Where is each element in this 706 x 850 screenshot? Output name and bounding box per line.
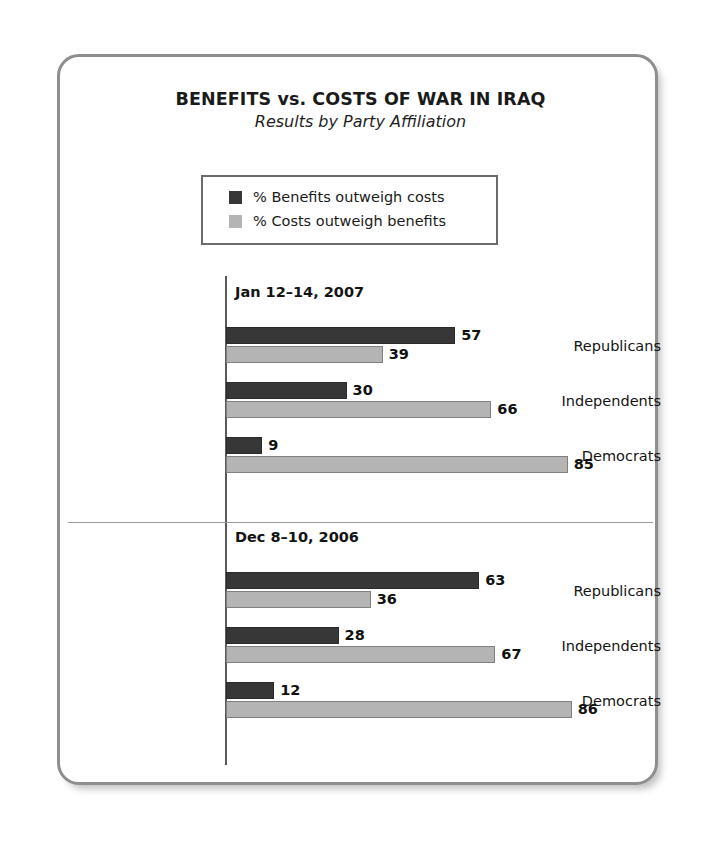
panel-header-dec-2006: Dec 8–10, 2006 bbox=[235, 529, 359, 545]
bar-row: 63 bbox=[226, 572, 505, 589]
bar-row: 66 bbox=[226, 401, 518, 418]
bar-row: 28 bbox=[226, 627, 522, 644]
bar-benefits[interactable] bbox=[226, 382, 347, 399]
bar-costs[interactable] bbox=[226, 456, 568, 473]
bar-row: 9 bbox=[226, 437, 594, 454]
bar-value-label: 12 bbox=[280, 682, 300, 699]
bar-group-republicans: 6336 bbox=[226, 572, 505, 608]
bar-value-label: 63 bbox=[485, 572, 505, 589]
bar-group-independents: 3066 bbox=[226, 382, 518, 418]
bar-costs[interactable] bbox=[226, 646, 495, 663]
chart-figure-frame: BENEFITS vs. COSTS OF WAR IN IRAQ Result… bbox=[57, 54, 658, 785]
bar-group-democrats: 1286 bbox=[226, 682, 598, 718]
bar-value-label: 36 bbox=[377, 591, 397, 608]
bar-benefits[interactable] bbox=[226, 572, 479, 589]
bar-value-label: 67 bbox=[501, 646, 521, 663]
bar-row: 57 bbox=[226, 327, 481, 344]
bar-row: 12 bbox=[226, 682, 598, 699]
bar-value-label: 39 bbox=[389, 346, 409, 363]
bar-benefits[interactable] bbox=[226, 327, 455, 344]
bar-group-republicans: 5739 bbox=[226, 327, 481, 363]
group-label-republicans: Republicans bbox=[506, 583, 661, 599]
bar-value-label: 57 bbox=[461, 327, 481, 344]
bar-value-label: 66 bbox=[497, 401, 517, 418]
bar-costs[interactable] bbox=[226, 591, 371, 608]
bar-value-label: 9 bbox=[268, 437, 278, 454]
bar-value-label: 85 bbox=[574, 456, 594, 473]
bar-row: 86 bbox=[226, 701, 598, 718]
bar-costs[interactable] bbox=[226, 701, 572, 718]
group-label-republicans: Republicans bbox=[506, 338, 661, 354]
bar-row: 85 bbox=[226, 456, 594, 473]
bar-row: 30 bbox=[226, 382, 518, 399]
bar-row: 36 bbox=[226, 591, 505, 608]
bar-value-label: 86 bbox=[578, 701, 598, 718]
bar-value-label: 28 bbox=[345, 627, 365, 644]
panel-header-jan-2007: Jan 12–14, 2007 bbox=[235, 284, 364, 300]
bar-benefits[interactable] bbox=[226, 627, 339, 644]
bar-group-democrats: 985 bbox=[226, 437, 594, 473]
plot-area: Jan 12–14, 2007 Dec 8–10, 2006 Republica… bbox=[60, 57, 661, 788]
bar-row: 67 bbox=[226, 646, 522, 663]
bar-costs[interactable] bbox=[226, 346, 383, 363]
bar-row: 39 bbox=[226, 346, 481, 363]
bar-benefits[interactable] bbox=[226, 437, 262, 454]
bar-costs[interactable] bbox=[226, 401, 491, 418]
panel-divider bbox=[68, 522, 653, 523]
bar-value-label: 30 bbox=[353, 382, 373, 399]
group-label-independents: Independents bbox=[506, 393, 661, 409]
bar-group-independents: 2867 bbox=[226, 627, 522, 663]
group-label-independents: Independents bbox=[506, 638, 661, 654]
bar-benefits[interactable] bbox=[226, 682, 274, 699]
